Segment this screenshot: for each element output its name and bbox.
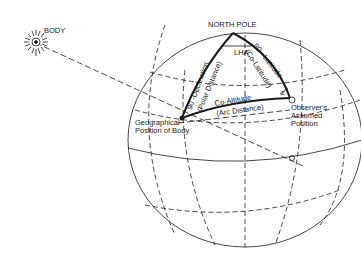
gp-marker	[180, 116, 185, 121]
body-label: BODY	[44, 27, 65, 35]
gp-label-2: Position of Body	[135, 127, 189, 135]
equator	[128, 140, 361, 161]
north-pole-label: NORTH POLE	[208, 21, 257, 29]
z-label: Z	[281, 89, 285, 97]
latitude-line	[150, 70, 345, 86]
latitude-line	[145, 190, 340, 212]
meridian	[183, 70, 215, 245]
observer-label-3: Position	[291, 120, 318, 128]
globe-outline	[128, 33, 361, 247]
